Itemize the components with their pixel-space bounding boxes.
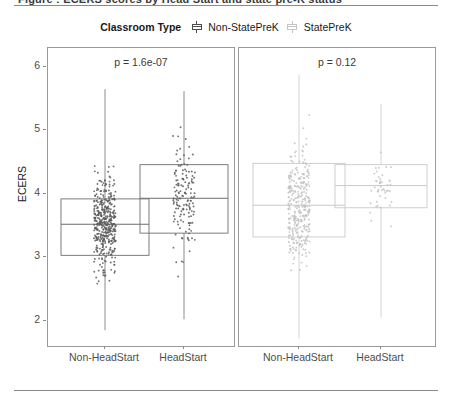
- panel-non-stateprek: p = 1.6e-07: [47, 47, 235, 347]
- y-axis-title: ECERS: [16, 154, 28, 214]
- p-value-label-left: p = 1.6e-07: [48, 56, 234, 68]
- y-tick-label: 5: [18, 122, 40, 134]
- y-tick-mark: [43, 66, 46, 67]
- p-value-label-right: p = 0.12: [239, 56, 435, 68]
- y-tick-mark: [43, 256, 46, 257]
- panel-canvas-left: [48, 48, 234, 346]
- y-tick-mark: [43, 193, 46, 194]
- y-tick-mark: [43, 129, 46, 130]
- y-tick-label: 4: [18, 186, 40, 198]
- x-tick-mark: [183, 346, 184, 349]
- y-tick-label: 2: [18, 313, 40, 325]
- x-tick-mark: [380, 346, 381, 349]
- boxplot-stateprek-headstart: [335, 104, 427, 318]
- x-tick-mark: [298, 346, 299, 349]
- y-tick-label: 6: [18, 59, 40, 71]
- panel-stateprek: p = 0.12: [238, 47, 436, 347]
- y-tick-label: 3: [18, 249, 40, 261]
- panel-canvas-right: [239, 48, 435, 346]
- boxplot-figure: ECERS 23456 p = 1.6e-07 p = 0.12 Non-Hea…: [0, 0, 452, 401]
- x-tick-mark: [104, 346, 105, 349]
- x-tick-label: HeadStart: [330, 351, 430, 363]
- bottom-divider-rule: [14, 390, 438, 391]
- y-tick-mark: [43, 320, 46, 321]
- x-tick-label: HeadStart: [133, 351, 233, 363]
